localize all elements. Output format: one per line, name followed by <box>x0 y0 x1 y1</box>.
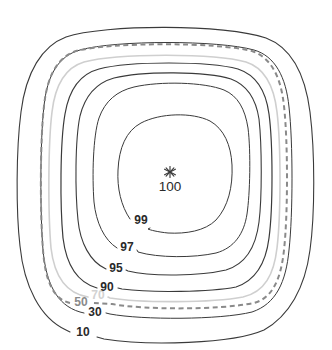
contour-label-95: 95 <box>109 261 123 275</box>
contour-label-90: 90 <box>100 280 114 294</box>
contour-plot-canvas: 10 30 50 70 90 95 97 <box>0 0 332 350</box>
contour-label-97: 97 <box>120 240 134 254</box>
peak-value-label: 100 <box>159 179 182 194</box>
contour-label-10: 10 <box>76 325 90 339</box>
contour-label-99: 99 <box>134 213 148 227</box>
contour-plot-root: 10 30 50 70 90 95 97 <box>0 0 332 350</box>
plot-background <box>0 0 332 350</box>
contour-label-30: 30 <box>88 305 102 319</box>
